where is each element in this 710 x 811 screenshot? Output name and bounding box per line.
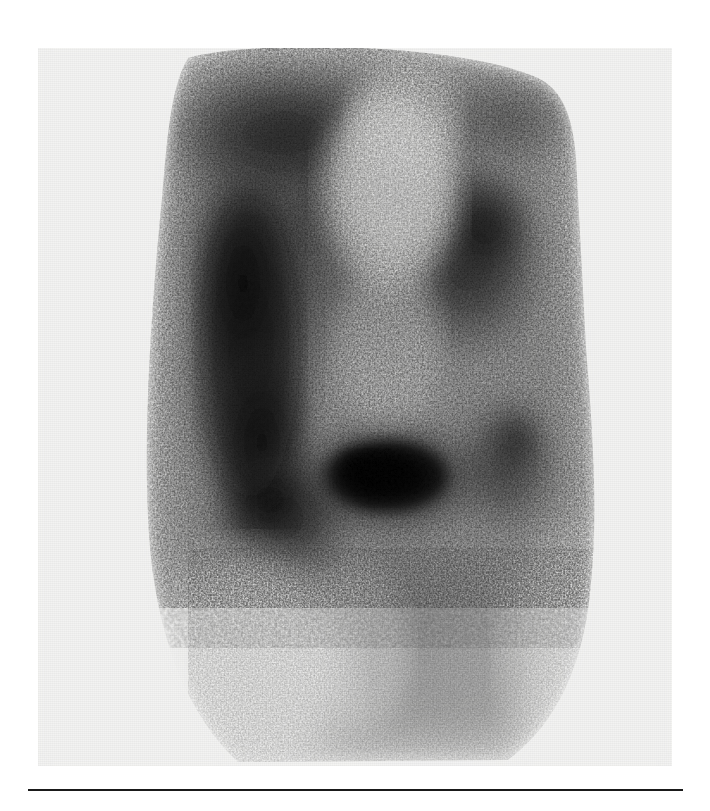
region-medial-band-core [202,198,298,498]
figure-separator-rule [28,789,683,791]
region-hot-spot-core [338,450,430,502]
figure-page [0,0,710,811]
region-photopenia-highlight [342,98,446,258]
scintigram-canvas [38,48,672,766]
bone-scintigram-image [38,48,672,766]
